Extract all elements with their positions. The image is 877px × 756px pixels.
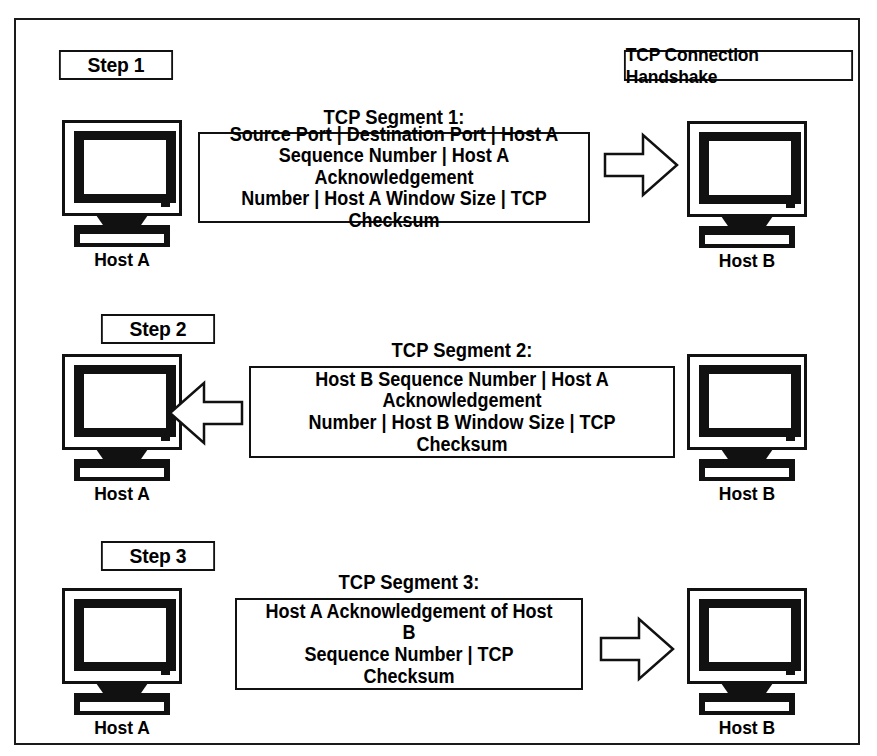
host-a-caption: Host A [56, 249, 188, 271]
monitor-screen-icon [709, 374, 791, 428]
monitor-base-icon [74, 693, 170, 715]
step-2-label-text: Step 2 [130, 317, 187, 341]
power-led-icon [786, 202, 795, 208]
segment-1-fields-box: Source Port | Destination Port | Host A … [198, 132, 590, 223]
power-led-icon [161, 201, 170, 207]
host-b-caption: Host B [681, 250, 813, 272]
computer-host-a-step-3: Host A [62, 588, 182, 716]
diagram-title-text: TCP Connection Handshake [626, 44, 851, 88]
segment-2-line-1: Host B Sequence Number | Host A Acknowle… [278, 369, 647, 412]
monitor-base-icon [699, 459, 795, 481]
monitor-screen-icon [84, 140, 166, 194]
host-a-caption: Host A [56, 717, 188, 739]
segment-3-line-2: Sequence Number | TCP Checksum [260, 644, 559, 687]
diagram-page: TCP Connection Handshake Step 1 Host A T… [0, 0, 877, 756]
diagram-title: TCP Connection Handshake [624, 50, 853, 81]
monitor-base-icon [74, 225, 170, 247]
monitor-case-icon [687, 121, 807, 217]
monitor-base-slot-icon [80, 234, 164, 243]
computer-host-a-step-1: Host A [62, 120, 182, 248]
power-led-icon [161, 669, 170, 675]
arrow-left-step-2 [168, 380, 244, 446]
diagram-frame: TCP Connection Handshake Step 1 Host A T… [14, 18, 860, 745]
segment-2-line-2: Number | Host B Window Size | TCP Checks… [278, 412, 647, 455]
computer-host-b-step-3: Host B [687, 588, 807, 716]
monitor-case-icon [62, 588, 182, 684]
segment-2-caption: TCP Segment 2: [275, 339, 649, 362]
step-1-label: Step 1 [59, 50, 173, 80]
monitor-base-icon [699, 226, 795, 248]
power-led-icon [786, 669, 795, 675]
monitor-case-icon [687, 588, 807, 684]
computer-host-a-step-2: Host A [62, 354, 182, 482]
step-1-label-text: Step 1 [88, 53, 145, 77]
monitor-screen-icon [709, 141, 791, 195]
segment-3-line-1: Host A Acknowledgement of Host B [260, 601, 559, 644]
monitor-bezel-icon [699, 365, 801, 437]
segment-1-line-2: Sequence Number | Host A Acknowledgement [225, 145, 563, 188]
step-3-label: Step 3 [101, 541, 215, 571]
monitor-bezel-icon [74, 365, 176, 437]
segment-3-caption: TCP Segment 3: [257, 571, 561, 594]
arrow-right-step-3 [599, 616, 675, 682]
step-2-label: Step 2 [101, 314, 215, 344]
monitor-base-slot-icon [705, 235, 789, 244]
arrow-right-step-1 [603, 132, 679, 198]
monitor-base-slot-icon [80, 468, 164, 477]
segment-1-line-3: Number | Host A Window Size | TCP Checks… [225, 188, 563, 231]
step-3-label-text: Step 3 [130, 544, 187, 568]
host-b-caption: Host B [681, 717, 813, 739]
monitor-screen-icon [84, 608, 166, 662]
monitor-bezel-icon [699, 599, 801, 671]
monitor-bezel-icon [699, 132, 801, 204]
monitor-case-icon [62, 354, 182, 450]
monitor-screen-icon [84, 374, 166, 428]
monitor-screen-icon [709, 608, 791, 662]
monitor-case-icon [62, 120, 182, 216]
host-a-caption: Host A [56, 483, 188, 505]
computer-host-b-step-2: Host B [687, 354, 807, 482]
monitor-base-icon [699, 693, 795, 715]
computer-host-b-step-1: Host B [687, 121, 807, 249]
power-led-icon [786, 435, 795, 441]
segment-3-fields-box: Host A Acknowledgement of Host B Sequenc… [235, 598, 583, 690]
segment-2-fields-box: Host B Sequence Number | Host A Acknowle… [249, 366, 675, 458]
monitor-bezel-icon [74, 131, 176, 203]
host-b-caption: Host B [681, 483, 813, 505]
monitor-bezel-icon [74, 599, 176, 671]
monitor-base-icon [74, 459, 170, 481]
monitor-base-slot-icon [80, 702, 164, 711]
monitor-case-icon [687, 354, 807, 450]
segment-1-line-1: Source Port | Destination Port | Host A [225, 124, 563, 146]
monitor-base-slot-icon [705, 468, 789, 477]
monitor-base-slot-icon [705, 702, 789, 711]
